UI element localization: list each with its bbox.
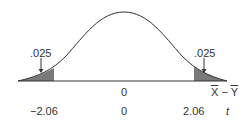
right-tail-shade [194,67,227,81]
diff-axis-minus: − [221,86,227,98]
diff-axis-x-bar: X [211,86,218,98]
diff-axis-y-bar: Y [231,86,238,98]
diff-axis-name: X − Y [211,86,238,98]
t-right-critical-label: 2.06 [183,105,204,117]
left-tail-area-label: .025 [30,47,51,59]
t-left-critical-label: −2.06 [30,105,58,117]
right-tail-area-label: .025 [194,47,215,59]
t-axis-name: t [226,105,229,117]
t-center-label: 0 [121,105,127,117]
diff-axis-center-label: 0 [121,86,127,98]
t-distribution-figure: .025 .025 0 X − Y −2.06 0 2.06 t [0,0,252,124]
left-arrowhead [39,69,44,73]
